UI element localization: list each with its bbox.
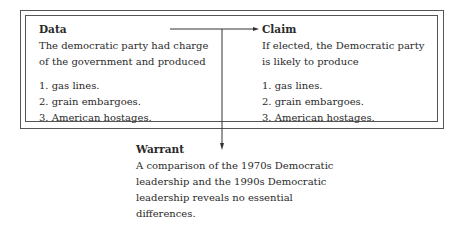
data-list: 1. gas lines. 2. grain embargoes. 3. Ame… xyxy=(39,78,229,126)
data-list-item: 3. American hostages. xyxy=(39,110,229,126)
data-list-item: 2. grain embargoes. xyxy=(39,94,229,110)
claim-text-line: is likely to produce xyxy=(262,54,442,70)
warrant-text-line: A comparison of the 1970s Democratic xyxy=(136,158,356,174)
warrant-text-line: leadership and the 1990s Democratic xyxy=(136,174,356,190)
claim-block: Claim If elected, the Democratic party i… xyxy=(262,21,442,126)
warrant-block: Warrant A comparison of the 1970s Democr… xyxy=(136,141,356,222)
data-text-line: The democratic party had charge xyxy=(39,38,229,54)
claim-text-line: If elected, the Democratic party xyxy=(262,38,442,54)
warrant-text-line: leadership reveals no essential xyxy=(136,190,356,206)
claim-list-item: 3. American hostages. xyxy=(262,110,442,126)
data-block: Data The democratic party had charge of … xyxy=(39,21,229,126)
warrant-text-line: differences. xyxy=(136,206,356,222)
claim-heading: Claim xyxy=(262,21,442,37)
claim-list: 1. gas lines. 2. grain embargoes. 3. Ame… xyxy=(262,78,442,126)
claim-arrowhead-icon xyxy=(253,27,259,31)
warrant-heading: Warrant xyxy=(136,141,356,157)
data-list-item: 1. gas lines. xyxy=(39,78,229,94)
claim-list-item: 1. gas lines. xyxy=(262,78,442,94)
claim-list-item: 2. grain embargoes. xyxy=(262,94,442,110)
data-text-line: of the government and produced xyxy=(39,54,229,70)
data-heading: Data xyxy=(39,21,229,37)
